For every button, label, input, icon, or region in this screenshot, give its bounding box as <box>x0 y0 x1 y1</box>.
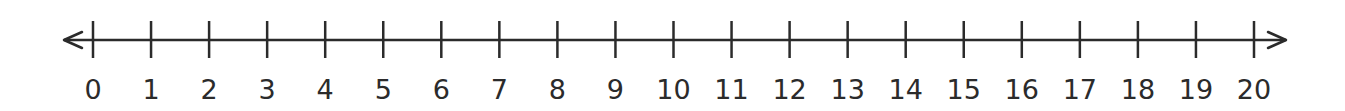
tick-label: 15 <box>934 74 994 106</box>
tick-label: 7 <box>469 74 529 106</box>
tick-label: 10 <box>644 74 704 106</box>
tick-label: 0 <box>63 74 123 106</box>
tick-label: 18 <box>1108 74 1168 106</box>
tick-label: 16 <box>992 74 1052 106</box>
tick-label: 20 <box>1224 74 1284 106</box>
tick-label: 11 <box>702 74 762 106</box>
tick-label: 3 <box>237 74 297 106</box>
tick-label: 9 <box>585 74 645 106</box>
tick-label: 12 <box>760 74 820 106</box>
tick-label: 19 <box>1166 74 1226 106</box>
tick-label: 1 <box>121 74 181 106</box>
tick-label: 5 <box>353 74 413 106</box>
tick-label: 6 <box>411 74 471 106</box>
tick-label: 8 <box>527 74 587 106</box>
tick-label: 4 <box>295 74 355 106</box>
tick-label: 17 <box>1050 74 1110 106</box>
tick-label: 14 <box>876 74 936 106</box>
tick-label: 13 <box>818 74 878 106</box>
tick-label: 2 <box>179 74 239 106</box>
ticks <box>93 21 1254 58</box>
